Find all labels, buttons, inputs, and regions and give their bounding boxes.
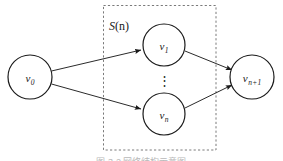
node-label-v1: v1 — [159, 40, 168, 52]
node-label-vn: vn — [159, 109, 168, 121]
edge-v0-to-v1 — [52, 50, 142, 71]
group-label-arg: (n) — [115, 19, 129, 33]
edge-v0-to-vn — [52, 84, 142, 109]
graph-diagram — [0, 0, 283, 161]
group-label-s-n: S(n) — [109, 19, 129, 34]
node-label-vn1: vn+1 — [243, 72, 261, 84]
edge-vn-to-vn1 — [185, 85, 232, 108]
figure-caption: 图 3-2 网络结构示意图 — [0, 155, 283, 161]
figure-canvas: v0 v1 vn vn+1 ⋮ S(n) 图 3-2 网络结构示意图 — [0, 0, 283, 161]
edge-v1-to-vn1 — [185, 51, 232, 70]
vertical-ellipsis: ⋮ — [158, 74, 171, 87]
node-label-v0: v0 — [25, 72, 34, 84]
